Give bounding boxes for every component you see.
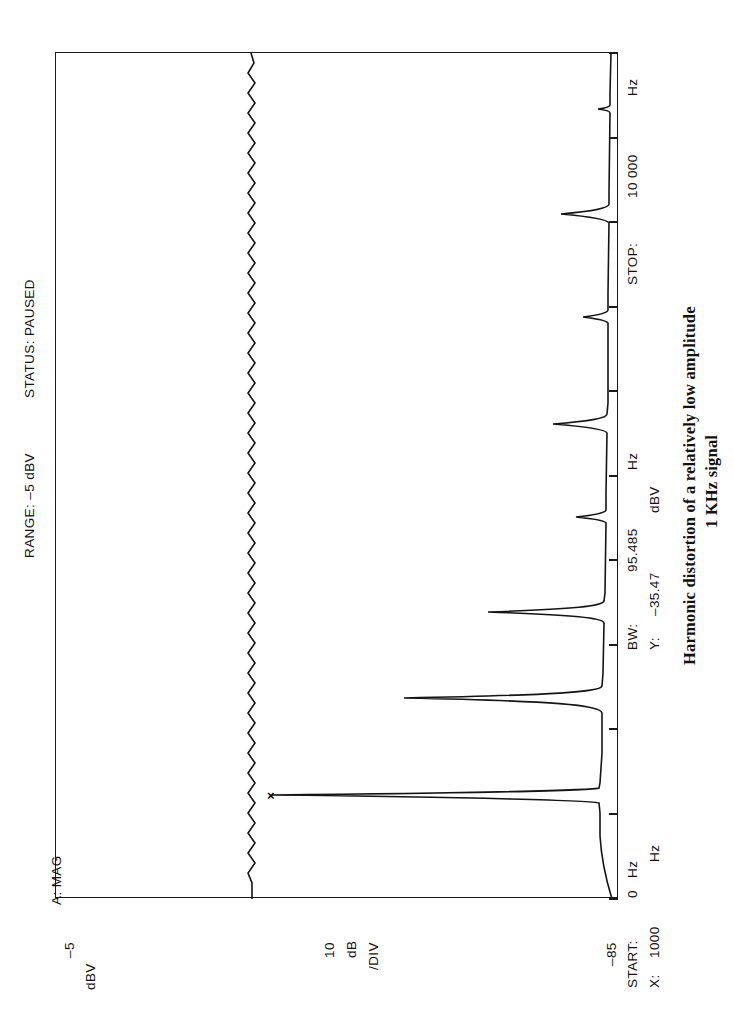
range-label: RANGE: –5 dBV	[22, 453, 37, 558]
marker-y-label: Y:	[647, 637, 662, 650]
spectrum-trace-svg	[56, 53, 619, 899]
figure-caption-line-2: 1 KHz signal	[702, 435, 722, 528]
axis-tick	[609, 52, 618, 54]
marker-x-value: 1000	[647, 926, 662, 958]
marker-x-unit: Hz	[647, 845, 662, 862]
axis-tick	[609, 221, 618, 223]
axis-tick	[609, 137, 618, 139]
x-axis-start-unit: Hz	[625, 861, 640, 878]
y-axis-scale-unit: dB	[344, 941, 359, 958]
x-axis-stop-label: STOP:	[625, 243, 640, 285]
x-axis-start-value: 0	[625, 890, 640, 898]
status-label: STATUS: PAUSED	[22, 279, 37, 398]
figure-caption-line-1: Harmonic distortion of a relatively low …	[680, 306, 700, 665]
axis-tick	[609, 559, 618, 561]
marker-bw-unit: Hz	[625, 453, 640, 470]
marker-x-label: X:	[647, 974, 662, 988]
y-axis-top-unit: dBV	[83, 963, 98, 990]
axis-tick	[609, 390, 618, 392]
axis-tick	[609, 898, 618, 900]
y-axis-scale-value: 10	[322, 942, 337, 958]
y-axis-bottom-value: –85	[604, 942, 619, 966]
x-axis-stop-unit: Hz	[625, 79, 640, 96]
axis-tick	[609, 813, 618, 815]
x-axis-stop-value: 10 000	[625, 154, 640, 198]
marker-y-value: –35.47	[647, 572, 662, 616]
marker-bw-value: 95.485	[625, 528, 640, 572]
spectrum-plot-frame: ×	[55, 52, 618, 898]
x-axis-start-label: START:	[625, 940, 640, 988]
marker-bw-label: BW:	[625, 624, 640, 650]
y-axis-top-value: –5	[62, 942, 77, 958]
noise-floor-trace	[248, 53, 255, 899]
marker-y-unit: dBV	[647, 486, 662, 513]
axis-tick	[609, 475, 618, 477]
axis-tick	[609, 728, 618, 730]
axis-tick	[609, 644, 618, 646]
trace-label: A: MAG	[49, 855, 64, 905]
cursor-marker-icon: ×	[267, 789, 275, 802]
spectrum-trace	[272, 53, 612, 899]
y-axis-scale-per-div: /DIV	[366, 942, 381, 970]
axis-tick	[609, 306, 618, 308]
